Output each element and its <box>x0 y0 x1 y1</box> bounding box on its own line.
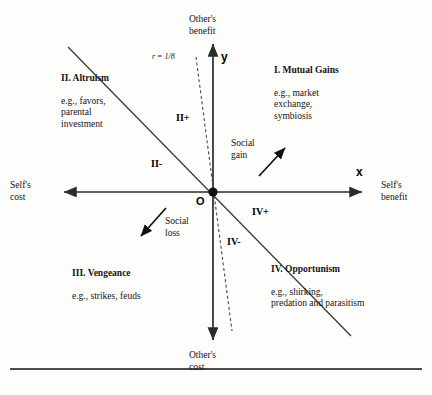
social-gain-label: Social gain <box>231 138 255 161</box>
subregion-iv-minus: IV- <box>227 236 241 247</box>
social-exchange-quadrant-diagram: Other's benefit Other's cost Self's cost… <box>0 0 432 395</box>
social-loss-arrow <box>141 208 166 236</box>
quadrant-iii-body: e.g., strikes, feuds <box>72 291 141 303</box>
quadrant-iv-title: IV. Opportunism <box>271 264 364 276</box>
quadrant-iii-title: III. Vengeance <box>72 268 141 280</box>
quadrant-ii-title: II. Altruism <box>61 73 109 85</box>
subregion-iv-plus: IV+ <box>252 206 269 217</box>
subregion-ii-plus: II+ <box>176 112 189 123</box>
axis-label-others-benefit: Other's benefit <box>189 14 216 37</box>
quadrant-ii-body: e.g., favors, parental investment <box>61 96 109 131</box>
social-gain-arrow <box>259 148 285 176</box>
origin-label: O <box>196 195 205 207</box>
y-axis-letter: y <box>221 50 228 64</box>
quadrant-i-block: I. Mutual Gains e.g., market exchange, s… <box>274 53 339 134</box>
quadrant-iv-body: e.g., shirking, predation and parasitism <box>271 287 364 310</box>
axis-label-others-cost: Other's cost <box>189 350 216 373</box>
social-loss-label: Social loss <box>165 216 189 239</box>
x-axis-letter: x <box>356 165 363 179</box>
relatedness-value-label: r = 1/8 <box>152 52 175 61</box>
quadrant-ii-block: II. Altruism e.g., favors, parental inve… <box>61 61 109 142</box>
axis-label-selfs-cost: Self's cost <box>10 180 31 203</box>
quadrant-iii-block: III. Vengeance e.g., strikes, feuds <box>72 256 141 314</box>
diagram-canvas <box>0 0 432 395</box>
axis-label-selfs-benefit: Self's benefit <box>381 180 407 203</box>
origin-point <box>208 187 217 196</box>
subregion-ii-minus: II- <box>151 158 162 169</box>
quadrant-i-title: I. Mutual Gains <box>274 65 339 77</box>
quadrant-i-body: e.g., market exchange, symbiosis <box>274 88 339 123</box>
quadrant-iv-block: IV. Opportunism e.g., shirking, predatio… <box>271 252 364 321</box>
